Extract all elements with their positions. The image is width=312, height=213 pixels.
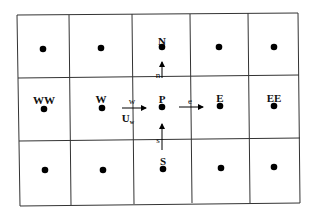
node-dot: [216, 44, 223, 51]
node-dot: [98, 45, 105, 52]
velocity-subscript: w: [130, 119, 135, 125]
grid-vline-1: [69, 15, 71, 205]
label-N: N: [158, 35, 166, 47]
node-dot: [271, 44, 278, 51]
grid-vline-4: [248, 13, 250, 203]
node-dot: [100, 167, 107, 174]
label-S: S: [160, 155, 166, 167]
label-face-w: w: [129, 96, 136, 106]
label-E: E: [216, 92, 223, 104]
label-WW: WW: [33, 94, 55, 106]
grid-vline-2: [132, 14, 134, 204]
label-EE: EE: [267, 92, 282, 104]
node-dot: [271, 164, 278, 171]
node-dot: [42, 167, 49, 174]
node-dot-WW: [41, 106, 48, 113]
node-dots: [40, 44, 278, 174]
finite-volume-grid-diagram: N WW W P E EE S w e n s Uw: [0, 0, 312, 213]
label-face-n: n: [156, 70, 161, 80]
grid-vline-3: [190, 14, 192, 203]
label-face-s: s: [156, 135, 160, 145]
node-dot: [40, 46, 47, 53]
node-dot: [218, 165, 225, 172]
label-face-e: e: [188, 96, 192, 106]
velocity-symbol: U: [122, 112, 130, 124]
label-W: W: [96, 93, 107, 105]
label-P: P: [159, 93, 166, 105]
node-dot-W: [99, 105, 106, 112]
